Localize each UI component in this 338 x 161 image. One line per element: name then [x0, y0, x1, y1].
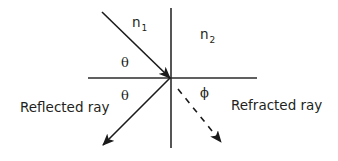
- reflected-ray-label: Reflected ray: [20, 99, 110, 115]
- reflected-ray: [103, 78, 170, 145]
- medium-1-label: n1: [132, 14, 147, 33]
- reflection-refraction-diagram: n1 n2 θ θ ϕ Reflected ray Refracted ray: [0, 0, 338, 161]
- incident-angle-label: θ: [121, 55, 129, 70]
- refracted-angle-label: ϕ: [200, 85, 209, 100]
- refracted-ray-label: Refracted ray: [231, 97, 322, 113]
- medium-2-label: n2: [200, 26, 215, 45]
- reflected-angle-label: θ: [121, 88, 129, 103]
